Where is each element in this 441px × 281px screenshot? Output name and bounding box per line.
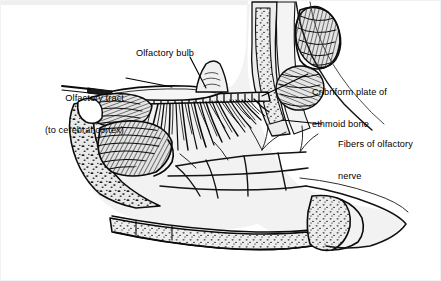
label-olfactory-nerve-fibers-line2: nerve [338, 171, 440, 182]
label-olfactory-nerve-fibers-line1: Fibers of olfactory [338, 139, 440, 150]
label-olfactory-nerve-fibers: Fibers of olfactory nerve [338, 118, 440, 203]
label-olfactory-tract-line1: Olfactory tract [18, 93, 124, 104]
label-olfactory-tract: Olfactory tract (to cerebral cortex) [18, 72, 124, 157]
label-cribriform-plate-line1: Cribriform plate of [312, 87, 436, 98]
label-olfactory-tract-line2: (to cerebral cortex) [18, 125, 124, 136]
label-olfactory-bulb: Olfactory bulb [108, 48, 194, 59]
